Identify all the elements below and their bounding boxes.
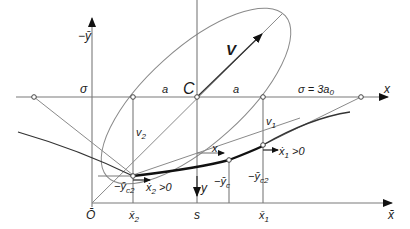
point-center bbox=[195, 95, 200, 100]
trajectory-right bbox=[263, 112, 350, 145]
point-sigma-left bbox=[32, 95, 37, 100]
tangent-left bbox=[34, 97, 133, 175]
point-xc bbox=[227, 158, 232, 163]
y-local-label: y bbox=[200, 181, 208, 195]
ellipse bbox=[75, 0, 318, 212]
center-label: C bbox=[183, 80, 195, 97]
s-label: s bbox=[194, 208, 200, 222]
a-left-label: a bbox=[162, 83, 168, 95]
neg-ybar-label: −ȳ bbox=[78, 29, 92, 43]
xbar2-label: x̄2 bbox=[128, 209, 140, 224]
neg-yc2-left-label: −ȳc2 bbox=[114, 180, 135, 195]
neg-yc2-right-label: −ȳc2 bbox=[248, 170, 269, 185]
neg-yc-label: −ȳc bbox=[214, 175, 230, 190]
a-right-label: a bbox=[233, 83, 239, 95]
velocity-label: V bbox=[226, 41, 238, 58]
sigma-right-label: σ = 3a0 bbox=[298, 83, 334, 97]
trajectory-thick bbox=[133, 145, 265, 176]
point-x1 bbox=[261, 143, 266, 148]
x-local-label: x bbox=[211, 142, 218, 154]
point-sigma-right bbox=[359, 95, 364, 100]
point-a-left bbox=[131, 95, 136, 100]
x-axis-label: x bbox=[383, 82, 391, 96]
v1-label: v1 bbox=[266, 115, 276, 130]
x1dot-label: ẋ1 >0 bbox=[278, 145, 305, 160]
xbar-axis-label: x̄ bbox=[387, 208, 395, 222]
tangent-right bbox=[263, 97, 361, 145]
x2dot-label: ẋ2 >0 bbox=[145, 181, 172, 196]
trajectory-left bbox=[18, 132, 133, 176]
xbar1-label: x̄1 bbox=[258, 209, 269, 224]
diagram-canvas: −ȳ x x̄ σ a C a σ = 3a0 V v2 v1 x y −ȳc2… bbox=[0, 0, 410, 229]
sigma-left-label: σ bbox=[80, 82, 88, 96]
point-a-right bbox=[261, 95, 266, 100]
v2-label: v2 bbox=[136, 126, 147, 141]
point-x2 bbox=[131, 174, 136, 179]
origin-label: Ō bbox=[86, 208, 95, 222]
